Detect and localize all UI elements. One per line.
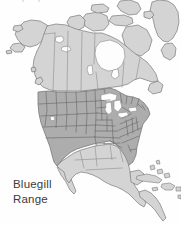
region-long-island-bahamas [156, 160, 160, 164]
region-melville-island [91, 4, 109, 13]
region-ellesmere-island [117, 0, 141, 15]
bluegill-range-map-figure: Bluegill Range [0, 0, 181, 225]
region-haida-gwaii [31, 67, 36, 72]
region-puerto-rico [176, 187, 181, 191]
caption-line-species: Bluegill [13, 177, 52, 192]
region-bahamas-a [150, 165, 155, 170]
region-greenland [150, 0, 179, 42]
water-great-salt-lake [50, 116, 55, 121]
region-bahamas-c [164, 173, 170, 178]
range-caption: Bluegill Range [13, 177, 52, 207]
region-victoria-island [82, 12, 109, 31]
region-hispaniola [161, 183, 175, 190]
region-newfoundland [148, 81, 163, 94]
region-devon-island [109, 15, 133, 26]
region-aleutian-islet [6, 50, 12, 54]
region-lesser-antilles [178, 195, 181, 199]
caption-line-range: Range [13, 192, 52, 207]
region-bahamas-b [157, 169, 163, 174]
region-jamaica [152, 187, 158, 191]
region-greenland-south [161, 43, 176, 60]
